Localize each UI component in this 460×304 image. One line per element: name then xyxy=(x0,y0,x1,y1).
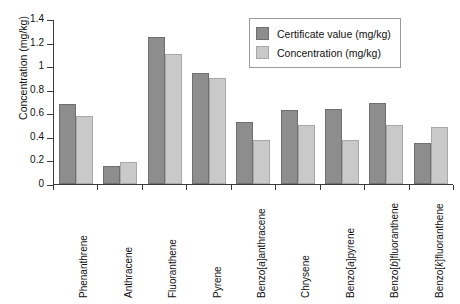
y-axis-tick-label: 1 xyxy=(38,60,44,71)
y-axis-tick-label: 1.2 xyxy=(30,37,44,48)
y-axis-tick: 0.4 xyxy=(47,138,53,139)
bar-concentration xyxy=(253,140,270,184)
bar-group xyxy=(54,20,98,184)
bar-group xyxy=(187,20,231,184)
bar-concentration xyxy=(120,162,137,184)
y-axis-tick-label: 0.4 xyxy=(30,131,44,142)
legend-item-certificate-value: Certificate value (mg/kg) xyxy=(256,24,391,43)
y-axis-tick-label: 1.4 xyxy=(30,13,44,24)
y-axis-tick-label: 0 xyxy=(38,178,44,189)
y-axis-tick-label: 0.2 xyxy=(30,154,44,165)
bar-certificate-value xyxy=(281,110,298,184)
x-axis-tick xyxy=(453,185,454,190)
x-axis-label: Chrysene xyxy=(301,188,311,298)
bar-concentration xyxy=(431,127,448,184)
x-axis-label: Benzo[k]fluoranthene xyxy=(435,188,445,298)
x-axis-label: Anthracene xyxy=(124,188,134,298)
y-axis-tick: 0.2 xyxy=(47,161,53,162)
x-axis-label: Phenanthrene xyxy=(79,188,89,298)
bar-certificate-value xyxy=(192,73,209,184)
chart-legend: Certificate value (mg/kg) Concentration … xyxy=(249,18,401,68)
legend-item-concentration: Concentration (mg/kg) xyxy=(256,43,391,62)
bar-concentration xyxy=(298,125,315,184)
bar-concentration xyxy=(165,54,182,184)
y-axis-tick-label: 0.6 xyxy=(30,107,44,118)
legend-swatch-icon-certificate-value xyxy=(256,27,269,40)
x-axis-label: Benzo[a]pyrene xyxy=(346,188,356,298)
y-axis-tick: 0.8 xyxy=(47,91,53,92)
y-axis-tick: 1.2 xyxy=(47,44,53,45)
x-axis-label: Fluoranthene xyxy=(168,188,178,298)
legend-label-certificate-value: Certificate value (mg/kg) xyxy=(277,28,391,40)
x-axis-label: Benzo[b]fluoranthene xyxy=(390,188,400,298)
bar-certificate-value xyxy=(236,122,253,184)
x-axis-labels: PhenanthreneAnthraceneFluoranthenePyrene… xyxy=(53,190,453,302)
legend-swatch-icon-concentration xyxy=(256,46,269,59)
bar-concentration xyxy=(386,125,403,184)
bar-certificate-value xyxy=(103,166,120,184)
bar-chart: Concentration (mg/kg) 1.41.210.80.60.40.… xyxy=(0,0,460,304)
bar-certificate-value xyxy=(325,109,342,184)
bar-concentration xyxy=(76,116,93,184)
bar-certificate-value xyxy=(369,103,386,184)
bar-group xyxy=(98,20,142,184)
bar-certificate-value xyxy=(414,143,431,184)
y-axis-title: Concentration (mg/kg) xyxy=(17,0,29,153)
y-axis-tick: 1 xyxy=(47,67,53,68)
x-axis-label: Benzo[a]anthracene xyxy=(257,188,267,298)
bar-certificate-value xyxy=(59,104,76,184)
bar-group xyxy=(143,20,187,184)
y-axis-tick: 1.4 xyxy=(47,20,53,21)
bar-group xyxy=(409,20,453,184)
bar-certificate-value xyxy=(148,37,165,184)
x-axis-label: Pyrene xyxy=(213,188,223,298)
bar-concentration xyxy=(209,78,226,184)
legend-label-concentration: Concentration (mg/kg) xyxy=(277,47,381,59)
y-axis-tick: 0.6 xyxy=(47,114,53,115)
y-axis-tick-label: 0.8 xyxy=(30,84,44,95)
bar-concentration xyxy=(342,140,359,184)
